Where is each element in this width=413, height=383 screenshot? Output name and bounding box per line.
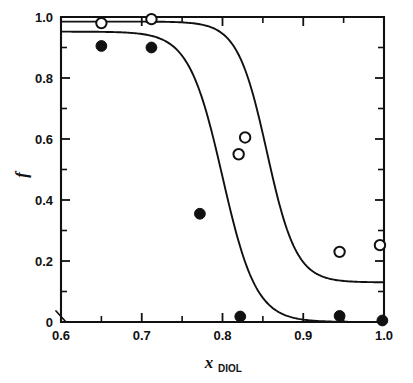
x-tick-label: 0.8 [213, 328, 231, 343]
data-point-open [240, 132, 250, 142]
plot-frame [61, 17, 384, 322]
data-point-filled [194, 208, 205, 219]
x-axis-title-text: x [204, 353, 214, 372]
x-tick-label: 0.9 [294, 328, 312, 343]
y-tick-labels: 00.20.40.60.81.0 [35, 10, 54, 330]
y-tick-label: 0 [46, 315, 53, 330]
series-filled-circles [96, 41, 388, 326]
y-axis-title: f [12, 170, 31, 178]
y-tick-label: 0.4 [35, 193, 54, 208]
data-point-filled [334, 311, 345, 322]
x-axis-ticks [61, 17, 384, 322]
data-point-open [334, 247, 344, 257]
x-tick-label: 0.6 [52, 328, 70, 343]
y-tick-label: 0.6 [35, 132, 53, 147]
y-tick-label: 0.8 [35, 71, 53, 86]
y-axis-title-text: f [12, 170, 31, 178]
data-point-open [375, 240, 385, 250]
data-point-open [96, 18, 106, 28]
data-point-open [233, 149, 243, 159]
x-axis-title: x DIOL [204, 353, 242, 374]
data-point-filled [146, 42, 157, 53]
data-point-filled [96, 41, 107, 52]
x-tick-label: 1.0 [375, 328, 393, 343]
series-open-circles [96, 14, 385, 257]
upper-sigmoid-fit [61, 22, 384, 283]
y-axis-ticks [61, 17, 384, 322]
chart-figure: 0.60.70.80.91.0 00.20.40.60.81.0 f x DIO… [0, 0, 413, 383]
y-tick-label: 0.2 [35, 254, 53, 269]
y-tick-label: 1.0 [35, 10, 53, 25]
x-tick-labels: 0.60.70.80.91.0 [52, 328, 393, 343]
x-tick-label: 0.7 [133, 328, 151, 343]
data-point-filled [377, 315, 388, 326]
fit-curves [61, 22, 384, 322]
lower-sigmoid-fit [61, 32, 384, 322]
scatter-plot-svg: 0.60.70.80.91.0 00.20.40.60.81.0 f x DIO… [0, 0, 413, 383]
x-axis-title-subscript: DIOL [218, 363, 242, 374]
data-point-open [146, 14, 156, 24]
data-point-filled [235, 311, 246, 322]
